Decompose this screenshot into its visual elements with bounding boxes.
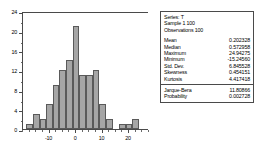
x-minor-tick [42,130,43,132]
histogram-bar [59,70,66,129]
y-tick-label: 20 [11,30,17,35]
bars-container [23,13,148,129]
histogram-bar [53,85,60,129]
normality-test-list: Jarque-Bera11.80866Probability0.002728 [164,87,250,100]
x-tick-label: 0 [74,135,77,141]
histogram-bar [40,119,47,129]
descriptive-stats-list: Mean0.202328Median0.572958Maximum24.9427… [164,37,250,82]
histogram-bar [93,70,100,129]
x-minor-tick [108,130,109,132]
x-tick-label: 10 [99,135,105,141]
histogram-bar [79,75,86,129]
y-tick-label: 16 [11,50,17,55]
x-tick-label: 20 [125,135,131,141]
x-tick-mark [49,130,50,133]
histogram-bar [33,114,40,129]
histogram-bar [26,124,33,129]
x-minor-tick [135,130,136,132]
histogram-figure: 04812162024 -1001020 Series: T Sample 1 … [0,0,257,160]
x-minor-tick [141,130,142,132]
y-tick-label: 12 [11,69,17,74]
x-minor-tick [55,130,56,132]
statistics-panel: Series: T Sample 1 100 Observations 100 … [160,11,254,103]
histogram-bar [126,124,133,129]
x-minor-tick [22,130,23,132]
x-minor-tick [115,130,116,132]
stat-value: 4.417418 [229,76,250,82]
x-tick-mark [102,130,103,133]
histogram-bar [66,60,73,129]
stat-row: Probability0.002728 [164,93,250,99]
stat-row: Kurtosis4.417418 [164,76,250,82]
x-minor-tick [29,130,30,132]
x-minor-tick [82,130,83,132]
y-tick-label: 0 [14,128,17,133]
histogram-bar [46,104,53,129]
x-tick-label: -10 [45,135,52,141]
histogram-bar [99,104,106,129]
histogram-bar [86,75,93,129]
x-minor-tick [121,130,122,132]
y-tick-label: 4 [14,109,17,114]
y-axis: 04812162024 [0,8,22,134]
stat-value: 0.002728 [229,93,250,99]
x-minor-tick [68,130,69,132]
stat-key: Kurtosis [164,76,182,82]
y-tick-label: 24 [11,10,17,15]
histogram-bar [106,119,113,129]
x-axis: -1001020 [22,130,148,154]
x-minor-tick [35,130,36,132]
x-minor-tick [62,130,63,132]
histogram-bar [73,26,80,129]
chart-panel: 04812162024 -1001020 [0,0,152,160]
plot-frame [22,12,148,130]
x-minor-tick [95,130,96,132]
stats-divider [161,84,253,85]
histogram-bar [132,119,139,129]
x-tick-mark [75,130,76,133]
y-tick-label: 8 [14,89,17,94]
x-tick-mark [128,130,129,133]
stat-key: Probability [164,93,187,99]
x-minor-tick [148,130,149,132]
x-minor-tick [88,130,89,132]
histogram-bar [119,124,126,129]
